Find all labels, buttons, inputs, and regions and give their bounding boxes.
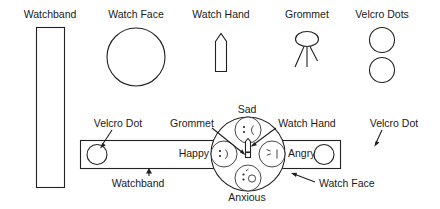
callout-watch-face: Watch Face <box>291 173 375 189</box>
legend-item-velcro-dots: Velcro Dots <box>355 8 409 83</box>
legend-label-watchband: Watchband <box>24 8 77 20</box>
legend-label-watch-hand: Watch Hand <box>192 8 250 20</box>
assembly-grommet <box>246 153 251 158</box>
callout-velcro-dot-right: Velcro Dot <box>370 117 419 147</box>
callout-label-grommet: Grommet <box>170 117 214 129</box>
assembly-watch-hand <box>246 139 251 153</box>
emotion-watch-diagram: Watchband Watch Face Watch Hand Grommet … <box>0 0 440 209</box>
two-circles-icon-bottom <box>370 58 395 83</box>
legend-label-grommet: Grommet <box>285 8 329 20</box>
callout-label-watch-face: Watch Face <box>319 177 375 189</box>
legend-label-velcro-dots: Velcro Dots <box>355 8 409 20</box>
callout-label-watch-hand: Watch Hand <box>278 117 336 129</box>
grommet-rivet-icon <box>295 32 319 68</box>
circle-icon <box>107 28 165 86</box>
two-circles-icon-top <box>370 28 395 53</box>
assembly-velcro-dot-left <box>87 145 107 165</box>
callout-watchband: Watchband <box>112 168 165 189</box>
legend-item-watch-hand: Watch Hand <box>192 8 250 72</box>
legend-item-watchband: Watchband <box>24 8 77 188</box>
callout-label-velcro-dot-left: Velcro Dot <box>94 117 143 129</box>
emotion-label-anxious: Anxious <box>228 191 265 203</box>
legend-label-watch-face: Watch Face <box>108 8 164 20</box>
emotion-face-angry <box>259 141 285 167</box>
assembly-velcro-dot-right <box>314 145 334 165</box>
tall-rectangle-icon <box>37 28 65 188</box>
legend-item-grommet: Grommet <box>285 8 329 67</box>
emotion-label-angry: Angry <box>288 147 316 159</box>
emotion-label-sad: Sad <box>238 103 257 115</box>
callout-label-velcro-dot-right: Velcro Dot <box>370 117 419 129</box>
legend-item-watch-face: Watch Face <box>107 8 165 86</box>
emotion-label-happy: Happy <box>179 147 210 159</box>
pointer-hand-icon <box>216 34 227 72</box>
callout-label-watchband: Watchband <box>112 177 165 189</box>
emotion-face-anxious <box>235 165 261 191</box>
